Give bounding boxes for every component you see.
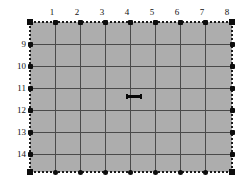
grid-field[interactable]: [30, 22, 232, 172]
boundary-corner-node: [229, 19, 235, 25]
boundary-node-top: [128, 20, 133, 25]
row-label: 12: [8, 105, 26, 115]
boundary-node-right: [230, 86, 235, 91]
boundary-node-top: [53, 20, 58, 25]
column-label: 1: [45, 7, 59, 17]
boundary-node-bottom: [203, 170, 208, 175]
boundary-node-left: [28, 152, 33, 157]
boundary-node-top: [203, 20, 208, 25]
grid-line-horizontal: [30, 66, 232, 67]
boundary-node-left: [28, 130, 33, 135]
boundary-node-right: [230, 64, 235, 69]
row-label: 9: [8, 39, 26, 49]
boundary-node-left: [28, 64, 33, 69]
row-label: 14: [8, 149, 26, 159]
column-label: 2: [70, 7, 84, 17]
grid-line-horizontal: [30, 132, 232, 133]
column-label: 8: [220, 7, 234, 17]
row-label: 10: [8, 61, 26, 71]
row-label: 11: [8, 83, 26, 93]
column-label: 6: [170, 7, 184, 17]
boundary-node-top: [103, 20, 108, 25]
boundary-node-right: [230, 130, 235, 135]
boundary-node-bottom: [103, 170, 108, 175]
boundary-node-left: [28, 108, 33, 113]
boundary-corner-node: [229, 169, 235, 175]
boundary-node-top: [153, 20, 158, 25]
boundary-node-right: [230, 108, 235, 113]
grid-line-horizontal: [30, 44, 232, 45]
column-label: 4: [120, 7, 134, 17]
boundary-corner-node: [27, 169, 33, 175]
figure-canvas: 12345678 91011121314: [0, 0, 249, 194]
grid-line-horizontal: [30, 154, 232, 155]
grid-line-horizontal: [30, 110, 232, 111]
boundary-node-left: [28, 86, 33, 91]
column-label: 5: [145, 7, 159, 17]
boundary-node-left: [28, 42, 33, 47]
boundary-corner-node: [27, 19, 33, 25]
boundary-node-right: [230, 42, 235, 47]
row-label: 13: [8, 127, 26, 137]
column-label: 7: [195, 7, 209, 17]
column-label: 3: [95, 7, 109, 17]
horizontal-scale-bar: [126, 95, 142, 98]
boundary-node-bottom: [53, 170, 58, 175]
boundary-node-bottom: [78, 170, 83, 175]
boundary-node-bottom: [178, 170, 183, 175]
boundary-node-bottom: [153, 170, 158, 175]
grid-line-horizontal: [30, 88, 232, 89]
boundary-node-top: [178, 20, 183, 25]
boundary-node-right: [230, 152, 235, 157]
boundary-node-top: [78, 20, 83, 25]
boundary-node-bottom: [128, 170, 133, 175]
